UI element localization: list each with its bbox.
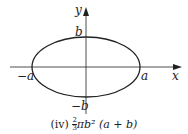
- label-neg-b: −b: [71, 100, 89, 112]
- ellipse-diagram: [0, 0, 188, 134]
- caption-prefix: (iv): [51, 118, 73, 131]
- label-b: b: [75, 26, 83, 38]
- caption-expression: πb² (a + b): [77, 118, 138, 131]
- figure-caption: (iv) 23πb² (a + b): [0, 117, 188, 132]
- x-axis-label: x: [172, 70, 179, 82]
- y-axis-arrow-icon: [83, 7, 89, 16]
- label-neg-a: −a: [17, 70, 34, 82]
- y-axis-label: y: [75, 4, 82, 16]
- label-a: a: [141, 70, 148, 82]
